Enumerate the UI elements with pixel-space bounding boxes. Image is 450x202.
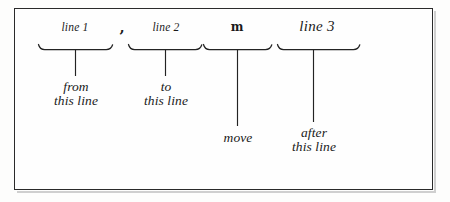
underbrace-line1 (39, 45, 113, 50)
underbrace-line2 (129, 45, 202, 50)
group-m (204, 45, 272, 127)
annotation-to-this-line: to this line (144, 80, 188, 108)
annotation-move-line-1: move (224, 131, 253, 145)
annotation-after-line-2: this line (292, 140, 336, 154)
annotation-after-this-line: after this line (292, 126, 336, 154)
figure-root: line 1 , line 2 m line 3 (0, 0, 450, 202)
annotation-to-line-2: this line (144, 94, 188, 108)
annotation-from-line-1: from (54, 80, 98, 94)
annotation-after-line-1: after (292, 126, 336, 140)
syntax-diagram: line 1 , line 2 m line 3 (0, 0, 450, 202)
group-line2 (129, 45, 202, 77)
annotation-from-this-line: from this line (54, 80, 98, 108)
annotation-to-line-1: to (144, 80, 188, 94)
underbrace-line3 (278, 45, 360, 50)
group-line1 (39, 45, 113, 77)
group-line3 (278, 45, 360, 123)
underbrace-m (204, 45, 272, 50)
annotation-move: move (224, 131, 253, 145)
annotation-from-line-2: this line (54, 94, 98, 108)
